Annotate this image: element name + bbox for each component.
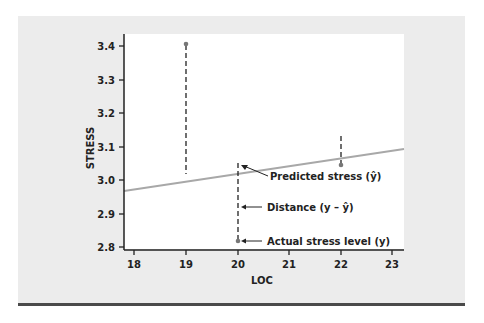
y-tick-labels: 3.4 3.3 3.2 3.1 3.0 2.9 2.8 bbox=[97, 41, 115, 253]
x-tick-label: 22 bbox=[334, 259, 348, 270]
x-axis-title: LOC bbox=[251, 275, 273, 286]
y-tick-label: 2.8 bbox=[97, 242, 115, 253]
x-tick-label: 20 bbox=[231, 259, 245, 270]
annotation-distance-label: Distance (y – ŷ) bbox=[267, 202, 354, 213]
data-point-22 bbox=[339, 163, 344, 168]
y-tick-label: 2.9 bbox=[97, 209, 115, 220]
y-tick-label: 3.2 bbox=[97, 108, 115, 119]
plot-area bbox=[124, 34, 404, 249]
x-tick-label: 19 bbox=[179, 259, 193, 270]
x-tick-label: 18 bbox=[127, 259, 141, 270]
y-axis-title: STRESS bbox=[85, 127, 96, 170]
y-tick-label: 3.1 bbox=[97, 142, 115, 153]
x-tick-label: 21 bbox=[282, 259, 296, 270]
x-tick-labels: 18 19 20 21 22 23 bbox=[127, 259, 399, 270]
annotation-actual-label: Actual stress level (y) bbox=[267, 236, 390, 247]
y-tick-label: 3.3 bbox=[97, 75, 115, 86]
data-point-19 bbox=[184, 42, 189, 47]
data-point-20 bbox=[236, 239, 241, 244]
chart: 3.4 3.3 3.2 3.1 3.0 2.9 2.8 18 19 20 21 … bbox=[0, 0, 484, 323]
y-tick-label: 3.4 bbox=[97, 41, 115, 52]
x-tick-label: 23 bbox=[385, 259, 399, 270]
annotation-predicted-label: Predicted stress (ŷ) bbox=[270, 171, 381, 182]
y-tick-label: 3.0 bbox=[97, 175, 115, 186]
